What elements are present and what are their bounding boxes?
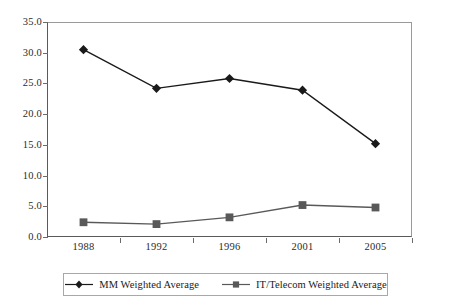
y-axis-tick-label: 15.0	[0, 140, 42, 150]
data-point-square	[153, 220, 161, 228]
square-marker-icon	[221, 279, 251, 290]
data-point-diamond	[225, 74, 234, 83]
data-point-diamond	[79, 45, 88, 54]
legend-entry-it-telecom-weighted-average: IT/Telecom Weighted Average	[221, 279, 387, 290]
x-axis-tick	[412, 238, 413, 243]
y-axis-tick-label: 20.0	[0, 109, 42, 119]
y-axis-tick-label: 30.0	[0, 48, 42, 58]
series-layer	[47, 22, 412, 237]
y-axis-tick-label: 5.0	[0, 201, 42, 211]
x-axis-tick-label: 1988	[73, 241, 95, 253]
x-axis-tick	[193, 238, 194, 243]
series-line-1	[84, 50, 376, 144]
x-axis-tick-label: 1992	[146, 241, 168, 253]
x-axis-tick-label: 1996	[219, 241, 241, 253]
legend-label-it-telecom-weighted-average: IT/Telecom Weighted Average	[256, 279, 387, 290]
data-point-diamond	[152, 84, 161, 93]
y-axis-tick-label: 35.0	[0, 17, 42, 27]
diamond-marker-icon	[64, 279, 94, 290]
y-axis-tick-labels: 0.05.010.015.020.025.030.035.0	[0, 22, 42, 237]
x-axis-tick-label: 2005	[365, 241, 387, 253]
data-point-square	[80, 218, 88, 226]
x-axis-tick-labels: 19881992199620012005	[47, 241, 412, 257]
chart-legend: MM Weighted Average IT/Telecom Weighted …	[63, 273, 388, 296]
y-axis-tick	[43, 237, 48, 238]
y-axis-tick-label: 25.0	[0, 78, 42, 88]
x-axis-tick	[266, 238, 267, 243]
x-axis-tick	[339, 238, 340, 243]
data-point-square	[372, 204, 380, 212]
x-axis-tick-label: 2001	[292, 241, 314, 253]
x-axis-tick	[120, 238, 121, 243]
data-point-square	[226, 213, 234, 221]
line-chart: 0.05.010.015.020.025.030.035.0 198819921…	[0, 0, 454, 306]
legend-entry-mm-weighted-average: MM Weighted Average	[64, 279, 199, 290]
y-axis-tick-label: 0.0	[0, 232, 42, 242]
y-axis-tick-label: 10.0	[0, 171, 42, 181]
data-point-square	[299, 201, 307, 209]
legend-label-mm-weighted-average: MM Weighted Average	[99, 279, 199, 290]
